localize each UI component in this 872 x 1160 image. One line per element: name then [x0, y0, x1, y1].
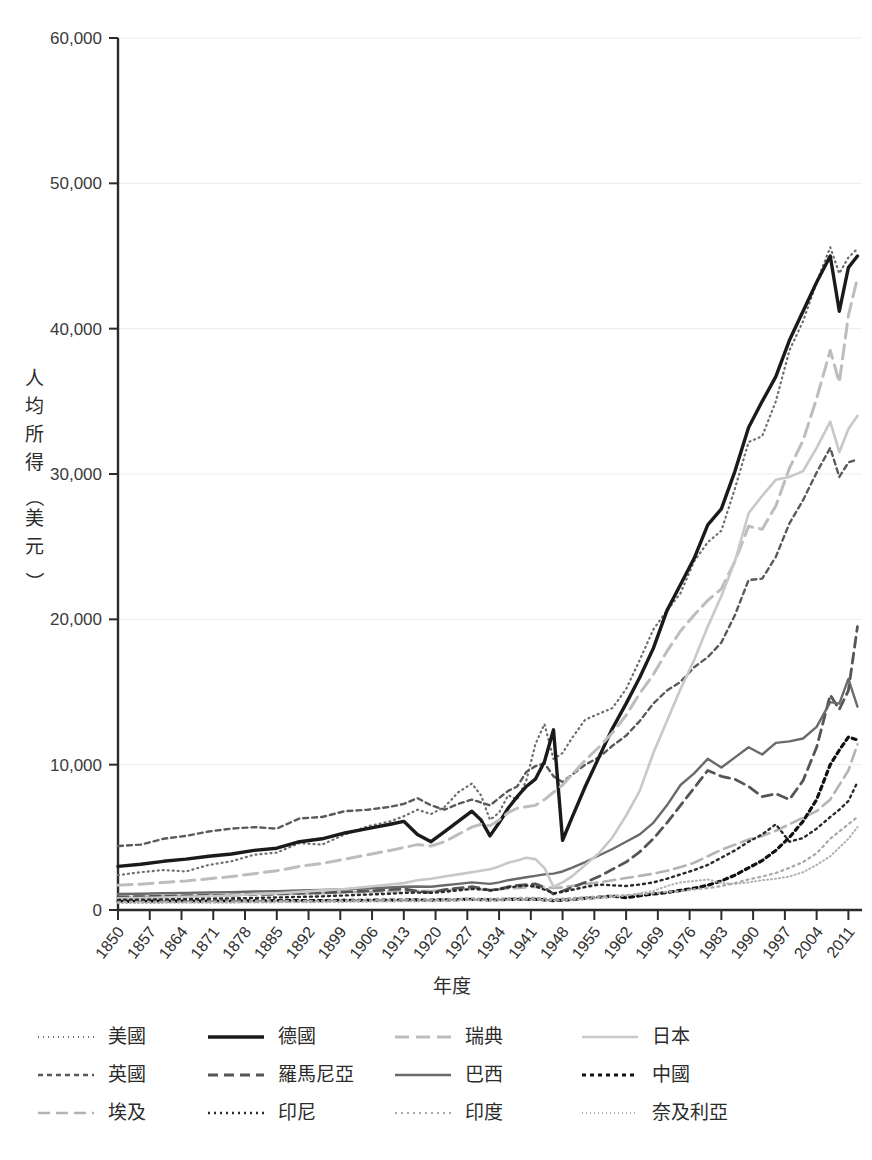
legend-label: 印度: [465, 1102, 503, 1123]
income-per-capita-line-chart: 010,00020,00030,00040,00050,00060,000 18…: [0, 0, 872, 1160]
y-axis-title-char: 元: [25, 536, 44, 557]
y-tick-label: 50,000: [50, 174, 102, 193]
y-tick-label: 20,000: [50, 610, 102, 629]
legend-label: 埃及: [108, 1102, 146, 1123]
y-axis-title-char: 均: [25, 396, 44, 417]
y-axis-title-char: ）: [23, 572, 44, 591]
y-tick-label: 30,000: [50, 465, 102, 484]
legend-label: 印尼: [278, 1102, 316, 1123]
y-tick-label: 10,000: [50, 756, 102, 775]
legend-label: 日本: [652, 1026, 690, 1047]
legend-label: 瑞典: [465, 1026, 503, 1047]
x-axis-title-text: 年度: [433, 976, 471, 997]
legend-label: 美國: [108, 1026, 146, 1047]
chart-figure: 010,00020,00030,00040,00050,00060,000 18…: [0, 0, 872, 1160]
y-axis-title-char: 得: [25, 452, 44, 473]
legend-label: 德國: [278, 1026, 316, 1047]
legend-label: 中國: [652, 1064, 690, 1085]
y-tick-label: 60,000: [50, 29, 102, 48]
y-tick-label: 40,000: [50, 320, 102, 339]
y-tick-label: 0: [93, 901, 102, 920]
x-axis-title: 年度: [433, 976, 471, 997]
legend-label: 英國: [108, 1064, 146, 1085]
y-axis-title-char: 人: [25, 368, 44, 389]
legend-label: 羅馬尼亞: [278, 1064, 354, 1085]
legend-label: 巴西: [465, 1064, 503, 1085]
y-axis-title-char: 美: [25, 508, 44, 529]
y-axis-title-char: （: [23, 488, 44, 507]
legend-label: 奈及利亞: [652, 1102, 728, 1123]
y-axis-title-char: 所: [25, 424, 44, 445]
